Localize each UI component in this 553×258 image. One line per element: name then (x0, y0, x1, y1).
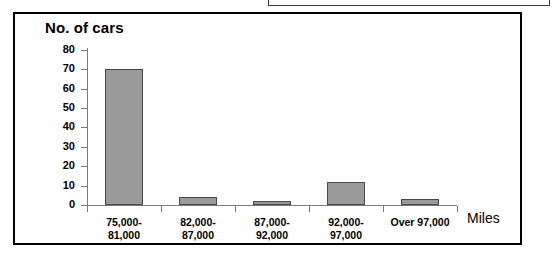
x-axis-category-line: 92,000- (306, 216, 386, 229)
x-axis-category-label: 87,000- 92,000 (232, 216, 312, 242)
y-axis-label: 40 (35, 120, 75, 132)
top-partial-box (268, 0, 550, 6)
bar-category-1 (105, 69, 143, 205)
x-axis-category-label: 92,000- 97,000 (306, 216, 386, 242)
x-axis-category-line: Over 97,000 (380, 216, 460, 229)
y-tick (81, 186, 87, 187)
bar-category-5 (401, 199, 439, 205)
x-axis-title: Miles (467, 210, 500, 226)
y-tick (81, 166, 87, 167)
x-axis-line (87, 205, 457, 206)
y-axis-label: 30 (35, 140, 75, 152)
y-tick (81, 108, 87, 109)
x-tick (235, 206, 236, 212)
y-tick (81, 69, 87, 70)
chart-figure: No. of cars 80 70 60 50 40 30 20 10 0 (13, 12, 522, 245)
x-axis-category-line: 92,000 (232, 229, 312, 242)
x-axis-category-line: 75,000- (84, 216, 164, 229)
y-tick (81, 89, 87, 90)
y-axis-label: 20 (35, 159, 75, 171)
x-axis-category-line: 87,000 (158, 229, 238, 242)
y-tick (81, 50, 87, 51)
x-axis-category-line: 81,000 (84, 229, 164, 242)
x-tick (309, 206, 310, 212)
y-axis-label: 60 (35, 82, 75, 94)
plot-area: 80 70 60 50 40 30 20 10 0 75,000- (15, 14, 520, 243)
x-axis-category-line: 87,000- (232, 216, 312, 229)
x-axis-category-label: 82,000- 87,000 (158, 216, 238, 242)
y-axis-label: 80 (35, 43, 75, 55)
y-axis-label: 0 (35, 198, 75, 210)
x-tick (457, 206, 458, 212)
y-axis-label: 50 (35, 101, 75, 113)
x-axis-category-line: 97,000 (306, 229, 386, 242)
bar-category-3 (253, 201, 291, 205)
y-axis-label: 10 (35, 179, 75, 191)
x-axis-category-label: 75,000- 81,000 (84, 216, 164, 242)
x-axis-category-label: Over 97,000 (380, 216, 460, 229)
x-tick (383, 206, 384, 212)
x-tick (87, 206, 88, 212)
y-tick (81, 127, 87, 128)
bar-category-4 (327, 182, 365, 205)
y-axis-label: 70 (35, 62, 75, 74)
y-tick (81, 147, 87, 148)
x-axis-category-line: 82,000- (158, 216, 238, 229)
x-tick (161, 206, 162, 212)
bar-category-2 (179, 197, 217, 205)
y-axis-line (87, 48, 88, 206)
